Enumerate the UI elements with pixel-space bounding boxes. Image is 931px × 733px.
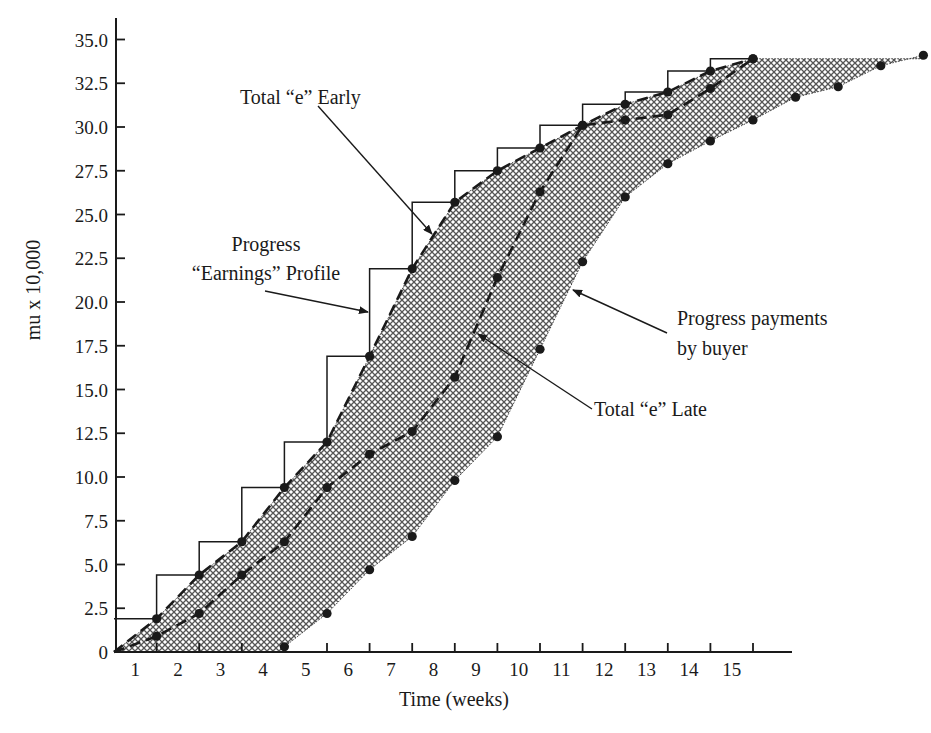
data-point — [365, 450, 374, 459]
x-tick-label: 3 — [216, 659, 226, 680]
y-tick-label: 15.0 — [75, 380, 108, 401]
x-tick-label: 15 — [722, 659, 741, 680]
data-point — [322, 609, 331, 618]
y-tick-label: 30.0 — [75, 117, 108, 138]
data-point — [578, 257, 587, 266]
data-point — [876, 61, 885, 70]
svg-text:Total “e” Early: Total “e” Early — [240, 86, 361, 109]
data-point — [919, 51, 928, 60]
data-point — [237, 537, 246, 546]
data-point — [621, 192, 630, 201]
data-point — [791, 93, 800, 102]
hatched-area — [114, 55, 923, 652]
data-point — [237, 570, 246, 579]
data-point — [535, 187, 544, 196]
x-tick-label: 1 — [131, 659, 141, 680]
data-point — [663, 159, 672, 168]
data-point — [152, 632, 161, 641]
y-tick-label: 12.5 — [75, 423, 108, 444]
y-tick-label: 32.5 — [75, 73, 108, 94]
x-tick-label: 8 — [429, 659, 439, 680]
data-point — [493, 273, 502, 282]
data-point — [706, 84, 715, 93]
data-point — [408, 532, 417, 541]
data-point — [280, 483, 289, 492]
data-point — [706, 66, 715, 75]
y-tick-label: 7.5 — [84, 511, 108, 532]
x-tick-label: 9 — [471, 659, 481, 680]
data-point — [322, 437, 331, 446]
y-tick-label: 5.0 — [84, 555, 108, 576]
data-point — [408, 264, 417, 273]
data-point — [152, 614, 161, 623]
y-tick-label: 17.5 — [75, 336, 108, 357]
x-axis-title: Time (weeks) — [399, 688, 509, 711]
y-axis-title: mu x 10,000 — [22, 240, 44, 341]
y-tick-label: 0 — [99, 642, 109, 663]
x-tick-label: 5 — [301, 659, 311, 680]
annotation-earnings-profile: Progress “Earnings” Profile — [192, 233, 368, 312]
data-point — [748, 54, 757, 63]
svg-text:by buyer: by buyer — [677, 337, 748, 360]
y-tick-label: 2.5 — [84, 598, 108, 619]
x-tick-label: 7 — [386, 659, 396, 680]
svg-text:Progress payments: Progress payments — [677, 307, 828, 330]
x-tick-label: 2 — [173, 659, 183, 680]
data-point — [834, 82, 843, 91]
data-point — [578, 121, 587, 130]
svg-text:Progress: Progress — [232, 233, 301, 256]
data-point — [450, 476, 459, 485]
annotation-progress-payments: Progress payments by buyer — [573, 290, 828, 360]
y-tick-label: 20.0 — [75, 292, 108, 313]
chart: 02.55.07.510.012.515.017.520.022.525.027… — [0, 0, 931, 733]
x-tick-label: 6 — [344, 659, 354, 680]
x-tick-label: 11 — [552, 659, 570, 680]
data-point — [195, 609, 204, 618]
x-tick-label: 14 — [680, 659, 700, 680]
data-point — [621, 115, 630, 124]
data-point — [408, 427, 417, 436]
x-tick-label: 12 — [594, 659, 613, 680]
y-tick-label: 22.5 — [75, 248, 108, 269]
data-point — [365, 565, 374, 574]
data-point — [195, 570, 204, 579]
data-point — [535, 345, 544, 354]
x-tick-label: 4 — [258, 659, 268, 680]
x-tick-label: 13 — [637, 659, 656, 680]
y-tick-label: 27.5 — [75, 161, 108, 182]
annotation-total-e-early: Total “e” Early — [240, 86, 432, 234]
y-tick-label: 35.0 — [75, 30, 108, 51]
data-point — [365, 352, 374, 361]
data-point — [748, 115, 757, 124]
data-point — [450, 373, 459, 382]
y-tick-label: 10.0 — [75, 467, 108, 488]
data-point — [493, 166, 502, 175]
shaded-band — [114, 55, 923, 652]
svg-text:“Earnings” Profile: “Earnings” Profile — [192, 262, 340, 285]
data-point — [450, 198, 459, 207]
data-point — [621, 100, 630, 109]
data-point — [663, 110, 672, 119]
x-tick-label: 10 — [509, 659, 528, 680]
data-point — [493, 432, 502, 441]
data-point — [535, 143, 544, 152]
data-point — [663, 87, 672, 96]
data-point — [706, 136, 715, 145]
data-point — [322, 483, 331, 492]
svg-text:Total “e” Late: Total “e” Late — [594, 398, 707, 420]
y-axis: 02.55.07.510.012.515.017.520.022.525.027… — [75, 18, 125, 663]
y-tick-label: 25.0 — [75, 205, 108, 226]
data-point — [280, 537, 289, 546]
